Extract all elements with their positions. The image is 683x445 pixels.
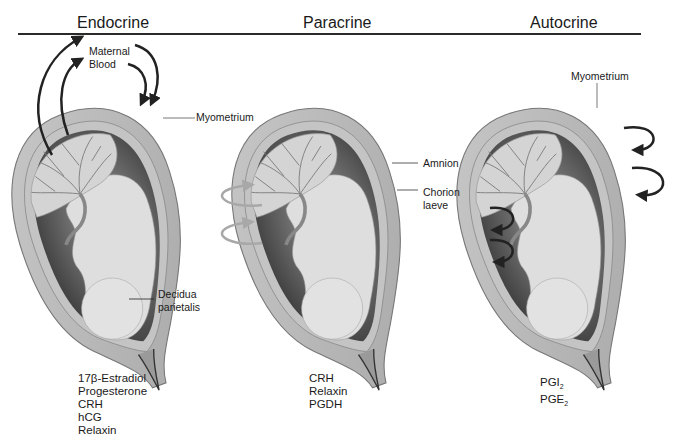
label-maternal-blood: Maternal Blood [89,45,130,71]
hormone-pge2: PGE2 [540,393,568,410]
label-myometrium-autocrine: Myometrium [571,70,629,83]
label-chorion-laeve: Chorion laeve [423,186,460,212]
label-myometrium-endocrine: Myometrium [196,111,254,124]
hormone-pgi2: PGI2 [540,376,568,393]
label-amnion: Amnion [423,157,459,170]
hormone-list-autocrine: PGI2 PGE2 [540,376,568,411]
hormone-list-paracrine: CRH Relaxin PGDH [309,372,347,411]
label-decidua-parietalis: Decidua parietalis [158,288,200,314]
hormone-list-endocrine: 17β-Estradiol Progesterone CRH hCG Relax… [78,372,147,437]
